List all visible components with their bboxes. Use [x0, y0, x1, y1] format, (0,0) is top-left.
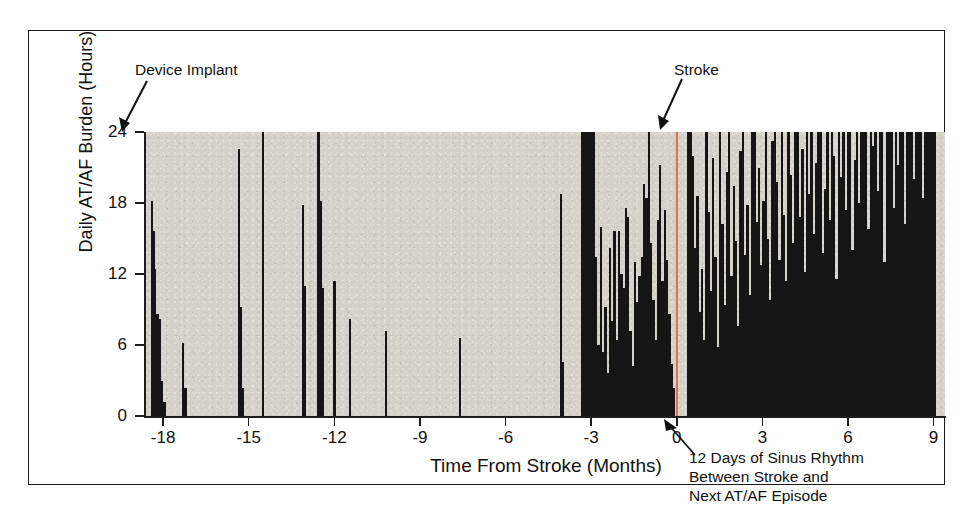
y-tick-label: 0	[81, 407, 127, 424]
y-tick	[135, 344, 144, 346]
figure-frame: 06121824 -18-15-12-9-6-30369 Daily AT/AF…	[28, 30, 945, 485]
x-tick	[505, 417, 507, 426]
x-tick	[334, 417, 336, 426]
x-tick-label: 9	[904, 429, 964, 448]
x-tick-label: -3	[561, 429, 621, 448]
bar	[184, 388, 186, 416]
bar	[322, 288, 324, 416]
y-tick-label: 6	[81, 336, 127, 353]
x-tick	[762, 417, 764, 426]
bar	[304, 286, 306, 416]
stroke-event-line	[676, 132, 678, 416]
x-axis-line	[144, 416, 946, 418]
x-tick	[847, 417, 849, 426]
y-tick	[135, 273, 144, 275]
x-tick-label: -18	[133, 429, 193, 448]
x-tick-label: 0	[647, 429, 707, 448]
x-tick-label: -15	[219, 429, 279, 448]
bar	[349, 319, 351, 416]
bar	[333, 281, 335, 416]
y-tick	[135, 131, 144, 133]
x-tick	[162, 417, 164, 426]
y-tick	[135, 415, 144, 417]
bar	[242, 388, 244, 416]
plot-area	[146, 132, 945, 416]
bar	[262, 132, 264, 416]
x-tick	[676, 417, 678, 426]
x-tick-label: 3	[732, 429, 792, 448]
annotation-sinus-rhythm: 12 Days of Sinus Rhythm Between Stroke a…	[689, 449, 864, 506]
stroke-arrow	[649, 73, 689, 135]
y-tick	[135, 202, 144, 204]
annotation-stroke: Stroke	[674, 61, 719, 80]
x-tick-label: -6	[476, 429, 536, 448]
bar	[562, 362, 564, 416]
bar	[934, 132, 936, 416]
x-tick	[419, 417, 421, 426]
x-tick	[248, 417, 250, 426]
bar	[163, 402, 165, 416]
bar	[459, 338, 461, 416]
annotation-device-implant: Device Implant	[135, 61, 238, 80]
bar	[385, 331, 387, 416]
y-axis-title: Daily AT/AF Burden (Hours)	[76, 0, 97, 285]
x-tick	[590, 417, 592, 426]
x-tick-label: 6	[818, 429, 878, 448]
bar	[673, 388, 675, 416]
x-tick	[933, 417, 935, 426]
x-tick-label: -12	[304, 429, 364, 448]
x-tick-label: -9	[390, 429, 450, 448]
y-axis-line	[144, 132, 146, 417]
